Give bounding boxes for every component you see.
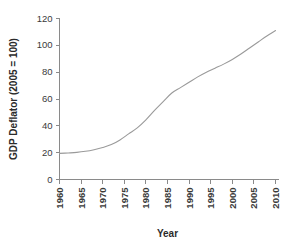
x-tick-label: 1965 bbox=[76, 187, 87, 209]
y-tick-label: 60 bbox=[42, 93, 53, 104]
y-tick-label: 100 bbox=[37, 39, 53, 50]
data-series-line bbox=[60, 31, 276, 154]
y-axis-title: GDP Deflator (2005 = 100) bbox=[8, 38, 19, 160]
x-axis-ticks bbox=[60, 180, 276, 184]
x-tick-label: 2010 bbox=[270, 188, 281, 209]
y-tick-label: 120 bbox=[37, 13, 53, 24]
y-axis-tick-labels: 020406080100120 bbox=[37, 13, 53, 185]
y-tick-label: 0 bbox=[47, 174, 52, 185]
y-tick-label: 80 bbox=[42, 66, 53, 77]
x-axis-title: Year bbox=[157, 228, 178, 239]
x-tick-label: 1970 bbox=[97, 188, 108, 209]
x-tick-label: 1985 bbox=[162, 187, 173, 209]
x-tick-label: 1980 bbox=[140, 188, 151, 209]
x-tick-label: 2000 bbox=[227, 188, 238, 209]
y-tick-label: 40 bbox=[42, 120, 53, 131]
x-tick-label: 1960 bbox=[54, 188, 65, 209]
plot-area: 020406080100120 196019651970197519801985… bbox=[0, 0, 286, 249]
x-axis-tick-labels: 1960196519701975198019851990199520002005… bbox=[54, 187, 281, 209]
x-tick-label: 2005 bbox=[248, 187, 259, 209]
axes-group bbox=[60, 18, 279, 180]
gdp-deflator-line-chart: 020406080100120 196019651970197519801985… bbox=[0, 0, 286, 249]
x-tick-label: 1995 bbox=[205, 187, 216, 209]
y-axis-ticks bbox=[56, 19, 60, 180]
x-tick-label: 1975 bbox=[119, 187, 130, 209]
y-tick-label: 20 bbox=[42, 147, 53, 158]
x-tick-label: 1990 bbox=[184, 188, 195, 209]
